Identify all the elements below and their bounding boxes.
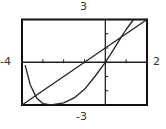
graph-plot	[0, 0, 166, 129]
